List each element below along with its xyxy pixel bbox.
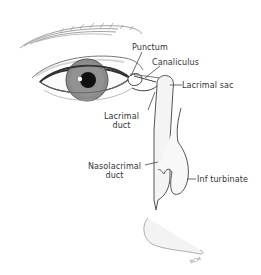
label-nasolacrimal-duct-line1: Nasolacrimal <box>88 162 141 171</box>
label-nasolacrimal-duct-line2: duct <box>88 171 141 180</box>
label-nasolacrimal-duct: Nasolacrimal duct <box>88 162 141 180</box>
lacrimal-anatomy-illustration <box>0 0 261 275</box>
eye-highlight <box>78 77 82 81</box>
eyebrow <box>20 23 142 48</box>
label-lacrimal-sac: Lacrimal sac <box>182 81 233 90</box>
label-lacrimal-duct-line2: duct <box>104 121 139 130</box>
label-lacrimal-duct: Lacrimal duct <box>104 112 139 130</box>
nose-tip <box>144 218 203 254</box>
pupil <box>80 72 96 88</box>
label-canaliculus: Canaliculus <box>152 58 199 67</box>
label-punctum: Punctum <box>132 43 168 52</box>
label-lacrimal-duct-line1: Lacrimal <box>104 112 139 121</box>
label-inf-turbinate: Inf turbinate <box>197 175 248 184</box>
